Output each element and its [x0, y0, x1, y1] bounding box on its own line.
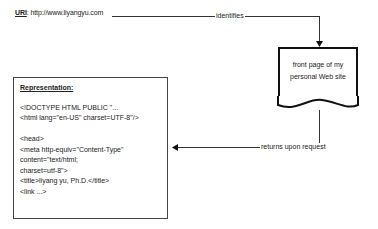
- uri-value: : http://www.liyangyu.com: [27, 9, 103, 16]
- code-line-blank: [20, 124, 161, 135]
- resource-line-1: front page of my: [280, 59, 356, 71]
- representation-box: Representation: <!DOCTYPE HTML PUBLIC ".…: [13, 77, 168, 219]
- returns-label: returns upon request: [260, 143, 327, 150]
- uri-label: URI: http://www.liyangyu.com: [15, 9, 103, 16]
- arrow-left-icon: [172, 144, 178, 151]
- representation-code: <!DOCTYPE HTML PUBLIC "... <html lang="e…: [20, 103, 161, 198]
- resource-document: front page of my personal Web site: [278, 47, 358, 97]
- identifies-line-down: [319, 16, 320, 43]
- representation-title: Representation:: [20, 83, 161, 94]
- code-line: charset=utf-8">: [20, 166, 161, 177]
- resource-line-2: personal Web site: [280, 71, 356, 83]
- code-line: <link ...>: [20, 187, 161, 198]
- identifies-label: identifies: [215, 12, 245, 19]
- code-line: <!DOCTYPE HTML PUBLIC "...: [20, 103, 161, 114]
- document-wave: [277, 96, 359, 112]
- code-line: <meta http-equiv="Content-Type" content=…: [20, 145, 161, 166]
- uri-heading: URI: [15, 9, 27, 16]
- code-line: <title>liyang yu, Ph.D.</title>: [20, 176, 161, 187]
- code-line: <head>: [20, 134, 161, 145]
- code-line: <html lang="en-US" charset=UTF-8"/>: [20, 113, 161, 124]
